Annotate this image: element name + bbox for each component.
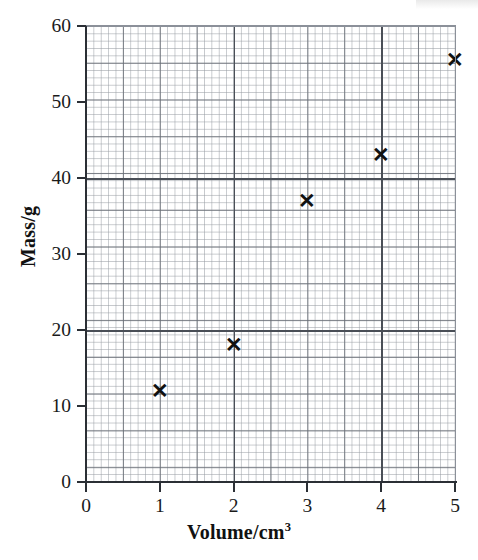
data-point-marker: ✕	[296, 190, 318, 212]
y-axis-tick-label: 30	[35, 244, 71, 264]
y-axis-tick	[77, 253, 86, 255]
data-point-marker: ✕	[223, 334, 245, 356]
data-point-marker: ✕	[149, 380, 171, 402]
y-axis-tick-label: 0	[35, 472, 71, 492]
x-axis-tick-label: 2	[221, 496, 247, 516]
major-gridline-vertical	[234, 26, 236, 482]
x-axis-title: Volume/cm3	[0, 521, 478, 544]
x-axis-tick	[233, 483, 235, 492]
major-gridline-horizontal	[86, 178, 455, 180]
y-axis-tick-label: 10	[35, 396, 71, 416]
y-axis-tick	[77, 329, 86, 331]
plot-area: ✕✕✕✕✕	[86, 26, 455, 482]
x-axis-title-exponent: 3	[285, 520, 291, 534]
major-gridline-vertical	[381, 26, 383, 482]
y-axis-tick	[77, 25, 86, 27]
major-gridline-horizontal	[86, 330, 455, 332]
medium-gridlines	[86, 26, 455, 482]
x-axis-tick	[454, 483, 456, 492]
x-axis-tick-label: 3	[294, 496, 320, 516]
plot-frame-top	[86, 25, 456, 27]
y-axis-tick-label: 60	[35, 16, 71, 36]
y-axis-tick-label: 50	[35, 92, 71, 112]
x-axis-tick-label: 4	[368, 496, 394, 516]
y-axis-tick	[77, 405, 86, 407]
y-axis-tick-label: 20	[35, 320, 71, 340]
data-point-marker: ✕	[370, 144, 392, 166]
x-axis-tick	[380, 483, 382, 492]
scatter-chart-figure: ✕✕✕✕✕ 0102030405060012345 Volume/cm3 Mas…	[0, 0, 478, 560]
plot-frame-right	[455, 26, 456, 482]
x-axis-tick	[159, 483, 161, 492]
x-axis-title-base: Volume/cm	[187, 521, 285, 543]
x-axis-tick	[85, 483, 87, 492]
x-axis-tick	[306, 483, 308, 492]
y-axis-title: Mass/g	[17, 182, 40, 292]
y-axis-tick-label: 40	[35, 168, 71, 188]
scan-artifact	[416, 0, 478, 9]
y-axis-tick	[77, 101, 86, 103]
x-axis-line	[85, 481, 457, 483]
y-axis-tick	[77, 177, 86, 179]
x-axis-tick-label: 1	[147, 496, 173, 516]
x-axis-tick-label: 0	[73, 496, 99, 516]
x-axis-tick-label: 5	[442, 496, 468, 516]
